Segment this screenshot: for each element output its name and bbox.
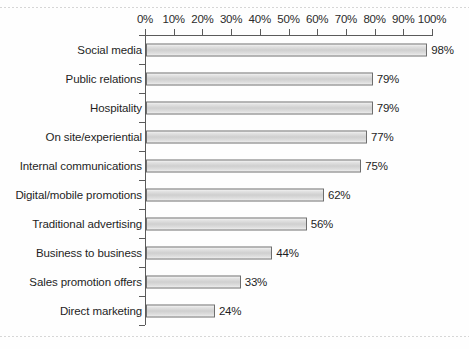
x-axis-tick-label: 0% bbox=[137, 13, 153, 25]
y-axis-tick-mark bbox=[139, 35, 145, 36]
x-axis-tick-mark bbox=[346, 29, 347, 35]
y-axis-tick-mark bbox=[139, 325, 145, 326]
y-axis-tick-mark bbox=[139, 180, 145, 181]
x-axis-tick-mark bbox=[231, 29, 232, 35]
bar-value-label: 98% bbox=[431, 44, 453, 56]
bar-value-label: 62% bbox=[328, 189, 350, 201]
x-axis-tick-mark bbox=[403, 29, 404, 35]
bar-value-label: 44% bbox=[276, 247, 298, 259]
x-axis-tick-mark bbox=[432, 29, 433, 35]
bar bbox=[146, 275, 241, 288]
bar-value-label: 33% bbox=[245, 276, 267, 288]
bar-value-label: 56% bbox=[311, 218, 333, 230]
bar-value-label: 79% bbox=[377, 73, 399, 85]
x-axis-tick-mark bbox=[145, 29, 146, 35]
bar bbox=[146, 188, 324, 201]
category-label: Digital/mobile promotions bbox=[15, 189, 142, 201]
y-axis-tick-mark bbox=[139, 296, 145, 297]
category-label: Traditional advertising bbox=[32, 218, 142, 230]
bar-value-label: 75% bbox=[365, 160, 387, 172]
page-edge-bottom bbox=[0, 336, 469, 337]
page-edge-top bbox=[0, 7, 469, 8]
x-axis-tick-label: 60% bbox=[306, 13, 328, 25]
chart-row: Public relations79% bbox=[0, 64, 469, 93]
chart-row: Internal communications75% bbox=[0, 151, 469, 180]
y-axis-tick-mark bbox=[139, 238, 145, 239]
x-axis-tick-mark bbox=[174, 29, 175, 35]
x-axis-tick-label: 90% bbox=[392, 13, 414, 25]
y-axis-tick-mark bbox=[139, 64, 145, 65]
bar bbox=[146, 159, 361, 172]
chart-row: Hospitality79% bbox=[0, 93, 469, 122]
category-label: Internal communications bbox=[20, 160, 142, 172]
bar bbox=[146, 101, 373, 114]
chart-row: Direct marketing24% bbox=[0, 296, 469, 325]
plot-area: Social media98%Public relations79%Hospit… bbox=[0, 35, 469, 327]
category-label: Social media bbox=[77, 44, 142, 56]
x-axis-tick-mark bbox=[202, 29, 203, 35]
x-axis-tick-label: 30% bbox=[220, 13, 242, 25]
chart-row: Sales promotion offers33% bbox=[0, 267, 469, 296]
category-label: Hospitality bbox=[90, 102, 142, 114]
y-axis-tick-mark bbox=[139, 209, 145, 210]
bar-value-label: 79% bbox=[377, 102, 399, 114]
x-axis-tick-label: 10% bbox=[162, 13, 184, 25]
x-axis-tick-mark bbox=[375, 29, 376, 35]
bar bbox=[146, 217, 307, 230]
bar-value-label: 24% bbox=[219, 305, 241, 317]
x-axis-tick-label: 40% bbox=[249, 13, 271, 25]
chart-row: Digital/mobile promotions62% bbox=[0, 180, 469, 209]
x-axis-tick-label: 20% bbox=[191, 13, 213, 25]
bar bbox=[146, 43, 427, 56]
x-axis-tick-label: 70% bbox=[335, 13, 357, 25]
x-axis-tick-mark bbox=[289, 29, 290, 35]
bar bbox=[146, 304, 215, 317]
bar-chart: 0%10%20%30%40%50%60%70%80%90%100% Social… bbox=[0, 0, 469, 349]
y-axis-tick-mark bbox=[139, 93, 145, 94]
chart-row: Business to business44% bbox=[0, 238, 469, 267]
category-label: Public relations bbox=[66, 73, 142, 85]
category-label: Sales promotion offers bbox=[29, 276, 142, 288]
x-axis-tick-mark bbox=[260, 29, 261, 35]
y-axis-tick-mark bbox=[139, 267, 145, 268]
category-label: Direct marketing bbox=[60, 305, 142, 317]
y-axis-tick-mark bbox=[139, 151, 145, 152]
x-axis-tick-label: 100% bbox=[418, 13, 447, 25]
y-axis-tick-mark bbox=[139, 122, 145, 123]
category-label: Business to business bbox=[36, 247, 142, 259]
chart-row: Traditional advertising56% bbox=[0, 209, 469, 238]
x-axis-tick-mark bbox=[317, 29, 318, 35]
x-axis-tick-label: 50% bbox=[277, 13, 299, 25]
x-axis-tick-label: 80% bbox=[363, 13, 385, 25]
x-axis-tick-labels: 0%10%20%30%40%50%60%70%80%90%100% bbox=[145, 13, 432, 27]
bar-value-label: 77% bbox=[371, 131, 393, 143]
chart-row: On site/experiential77% bbox=[0, 122, 469, 151]
bar bbox=[146, 72, 373, 85]
bar bbox=[146, 130, 367, 143]
chart-row: Social media98% bbox=[0, 35, 469, 64]
bar bbox=[146, 246, 272, 259]
category-label: On site/experiential bbox=[46, 131, 142, 143]
